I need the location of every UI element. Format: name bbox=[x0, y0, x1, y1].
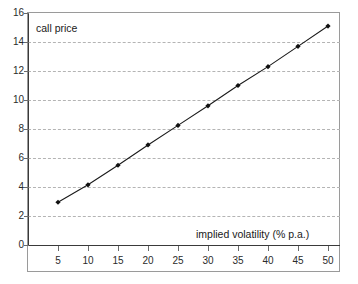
data-point-marker bbox=[55, 200, 60, 205]
series-markers bbox=[55, 23, 330, 204]
series-plot bbox=[0, 0, 358, 284]
chart-container: 0246810121416 5101520253035404550 call p… bbox=[0, 0, 358, 284]
series-line bbox=[58, 26, 328, 202]
